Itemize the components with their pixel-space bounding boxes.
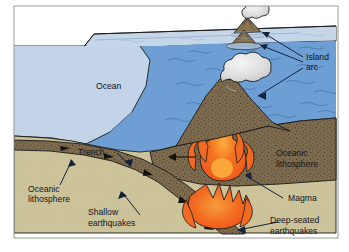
label-oceanic-lithosphere-left-line1: Oceanic bbox=[28, 184, 60, 194]
label-island-arc-line1: Island bbox=[306, 52, 329, 62]
label-island-arc-line2: arc bbox=[306, 62, 319, 72]
label-oceanic-lithosphere-left-line2: lithosphere bbox=[28, 194, 70, 204]
magma-chamber-core bbox=[211, 158, 233, 178]
label-shallow-earthquakes-line1: Shallow bbox=[88, 207, 119, 217]
label-oceanic-lithosphere-right-line1: Oceanic bbox=[276, 148, 308, 158]
diagram-stage: Ocean Island arc Trench Oceanic lithosph… bbox=[0, 0, 349, 252]
label-ocean: Ocean bbox=[96, 81, 122, 91]
label-deep-earthquakes-line2: earthquakes bbox=[270, 226, 317, 236]
label-magma: Magma bbox=[288, 193, 317, 203]
label-shallow-earthquakes-line2: earthquakes bbox=[88, 218, 135, 228]
subduction-zone-diagram: Ocean Island arc Trench Oceanic lithosph… bbox=[0, 0, 349, 252]
label-deep-earthquakes-line1: Deep-seated bbox=[270, 215, 319, 225]
label-oceanic-lithosphere-right-line2: lithosphere bbox=[276, 159, 318, 169]
label-trench: Trench bbox=[78, 147, 105, 157]
